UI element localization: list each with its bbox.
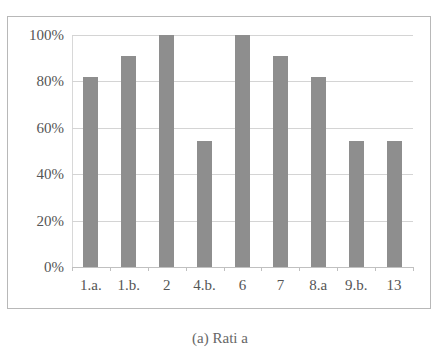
x-axis-line [72,267,413,268]
bar [159,35,174,267]
x-tick-label: 6 [224,277,262,293]
x-tick-label: 8.a [299,277,337,293]
x-tick-label: 13 [375,277,413,293]
x-tick [224,267,225,271]
y-axis-line [72,35,73,268]
x-tick [299,267,300,271]
x-tick [375,267,376,271]
bar [387,141,402,267]
x-tick [337,267,338,271]
x-tick-label: 9.b. [337,277,375,293]
y-tick-label: 20% [14,213,64,229]
bar [235,35,250,267]
bar [349,141,364,267]
bar [121,56,136,267]
y-tick-label: 60% [14,120,64,136]
x-tick [186,267,187,271]
plot-area [72,35,413,267]
y-tick-label: 100% [14,27,64,43]
figure-caption: (a) Rati a [0,330,440,347]
x-tick [110,267,111,271]
x-tick-label: 4.b. [186,277,224,293]
x-tick [148,267,149,271]
y-tick-label: 40% [14,166,64,182]
bar [83,77,98,267]
x-tick-label: 1.b. [110,277,148,293]
x-tick-label: 7 [261,277,299,293]
bar [273,56,288,267]
y-tick-label: 80% [14,73,64,89]
x-tick-label: 2 [148,277,186,293]
x-tick-label: 1.a. [72,277,110,293]
bar [311,77,326,267]
x-tick [261,267,262,271]
x-tick [413,267,414,271]
bar [197,141,212,267]
y-tick-label: 0% [14,259,64,275]
x-tick [72,267,73,271]
